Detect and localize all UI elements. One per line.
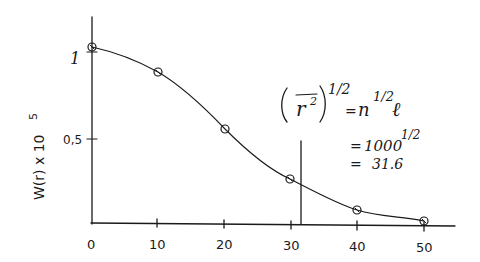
y-tick-label-1: 1	[70, 49, 80, 68]
paren-left	[282, 88, 287, 122]
formula-1000: 1000	[364, 137, 403, 155]
y-tick-label-0-5: 0,5	[63, 133, 82, 147]
x-tick-label-10: 10	[149, 237, 166, 252]
x-tick-label-20: 20	[216, 237, 233, 252]
x-tick-label-50: 50	[416, 240, 433, 255]
data-curve	[92, 47, 424, 221]
y-axis-label-exponent: 5	[27, 113, 40, 120]
formula-equals-1: =	[345, 103, 357, 119]
formula-r-squared: 2	[309, 95, 317, 108]
chart-canvas: 1 0,5 0 10 20 30 40 50 W(r) x 10 5 r 2	[0, 0, 480, 262]
formula-r: r	[296, 97, 307, 121]
formula-l: ℓ	[392, 97, 401, 121]
x-tick-label-0: 0	[87, 237, 95, 252]
x-axis	[91, 223, 455, 226]
formula-1000-exponent: 1/2	[401, 128, 420, 142]
formula-annotation: r 2 1/2 = n 1/2 ℓ = 1000 1/2 = 31.6	[282, 81, 421, 172]
x-tick-label-30: 30	[283, 238, 300, 253]
paren-right	[320, 86, 325, 122]
formula-equals-3: =	[350, 156, 362, 172]
y-axis-label-text: W(r) x 10	[31, 134, 47, 200]
formula-rhs-exponent: 1/2	[373, 89, 394, 104]
data-markers	[88, 43, 428, 225]
formula-n: n	[358, 99, 370, 120]
formula-equals-2: =	[350, 138, 362, 154]
y-axis-label: W(r) x 10 5	[27, 113, 47, 200]
x-tick-label-40: 40	[349, 239, 366, 254]
formula-31-6: 31.6	[372, 156, 403, 172]
formula-lhs-exponent: 1/2	[328, 81, 351, 97]
